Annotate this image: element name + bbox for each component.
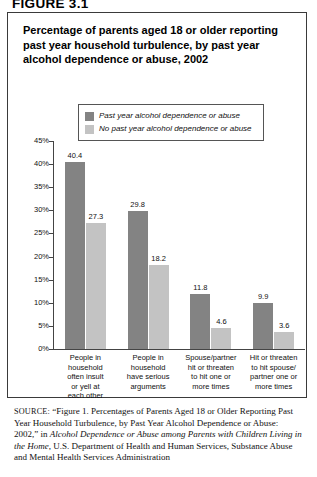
y-axis-tick-label: 40% [16, 160, 49, 168]
bar[interactable] [274, 332, 294, 349]
x-axis-category-label: Hit or threatento hit spouse/partner one… [242, 353, 305, 391]
x-axis-category-line: have serious [117, 372, 180, 382]
y-axis-tick-label: 0% [16, 345, 49, 353]
x-axis-category-line: often insult [54, 372, 117, 382]
bars-container: 40.427.329.818.211.84.69.93.6 [54, 141, 305, 349]
x-axis-category-line: arguments [117, 382, 180, 392]
y-axis: 45%40%35%30%25%20%15%10%5%0% [16, 141, 49, 349]
legend-item: Past year alcohol dependence or abuse [85, 110, 257, 122]
y-axis-tick-mark [49, 257, 53, 258]
x-axis-category-line: household [117, 363, 180, 373]
legend-item: No past year alcohol dependence or abuse [85, 123, 257, 135]
bar-group: 29.818.2 [117, 141, 180, 349]
bar-value-label: 4.6 [207, 318, 235, 326]
y-axis-tick-label: 45% [16, 137, 49, 145]
x-axis-category-line: hit or threaten [180, 363, 243, 373]
x-axis-category-line: to hit spouse/ [242, 363, 305, 373]
x-axis-category-line: Spouse/partner [180, 353, 243, 363]
y-axis-tick-mark [49, 210, 53, 211]
legend-item-label: Past year alcohol dependence or abuse [99, 111, 240, 121]
x-axis-category-line: more times [180, 382, 243, 392]
x-axis-category-line: People in [117, 353, 180, 363]
bar-group: 11.84.6 [180, 141, 243, 349]
bar-value-label: 29.8 [124, 201, 152, 209]
x-axis-line [53, 349, 305, 350]
y-axis-tick-mark [49, 326, 53, 327]
x-axis-category-line: People in [54, 353, 117, 363]
chart-legend: Past year alcohol dependence or abuse No… [78, 104, 264, 141]
bar[interactable] [211, 328, 231, 349]
x-axis-category-label: People inhouseholdoften insultor yell at… [54, 353, 117, 401]
bar[interactable] [86, 223, 106, 349]
source-note-part2: , U.S. Department of Health and Human Se… [14, 441, 292, 463]
x-axis-category-line: partner one or [242, 372, 305, 382]
bar[interactable] [65, 162, 85, 349]
plot-area: 45%40%35%30%25%20%15%10%5%0% 40.427.329.… [8, 141, 308, 399]
bar-value-label: 27.3 [82, 213, 110, 221]
x-axis-category-label: People inhouseholdhave seriousarguments [117, 353, 180, 391]
legend-swatch-icon [85, 125, 94, 134]
y-axis-tick-label: 35% [16, 183, 49, 191]
x-axis-category-line: or yell at [54, 382, 117, 392]
y-axis-tick-mark [49, 280, 53, 281]
source-note: SOURCE: “Figure 1. Percentages of Parent… [14, 406, 304, 464]
y-axis-tick-label: 10% [16, 299, 49, 307]
x-axis-category-line: to hit one or [180, 372, 243, 382]
legend-item-label: No past year alcohol dependence or abuse [99, 124, 252, 134]
x-axis-category-line: household [54, 363, 117, 373]
bar-group: 9.93.6 [242, 141, 305, 349]
legend-swatch-icon [85, 112, 94, 121]
bar[interactable] [149, 265, 169, 349]
x-axis-categories: People inhouseholdoften insultor yell at… [54, 353, 305, 399]
bar-value-label: 9.9 [249, 293, 277, 301]
y-axis-tick-label: 25% [16, 230, 49, 238]
chart-title: Percentage of parents aged 18 or older r… [23, 23, 295, 67]
x-axis-category-line: more times [242, 382, 305, 392]
figure-number: FIGURE 3.1 [12, 0, 89, 11]
x-axis-category-line: each other [54, 391, 117, 401]
x-axis-category-label: Spouse/partnerhit or threatento hit one … [180, 353, 243, 391]
y-axis-tick-mark [49, 349, 53, 350]
y-axis-tick-label: 30% [16, 207, 49, 215]
bar-value-label: 3.6 [270, 322, 298, 330]
y-axis-tick-mark [49, 141, 53, 142]
y-axis-tick-label: 5% [16, 322, 49, 330]
y-axis-tick-label: 15% [16, 276, 49, 284]
source-note-prefix: SOURCE: [14, 407, 50, 416]
bar-group: 40.427.3 [54, 141, 117, 349]
figure-box: Percentage of parents aged 18 or older r… [7, 12, 307, 398]
y-axis-tick-mark [49, 303, 53, 304]
bar-value-label: 11.8 [186, 284, 214, 292]
bar[interactable] [128, 211, 148, 349]
y-axis-tick-label: 20% [16, 253, 49, 261]
bar-value-label: 40.4 [61, 152, 89, 160]
y-axis-tick-mark [49, 187, 53, 188]
y-axis-tick-mark [49, 164, 53, 165]
bar-value-label: 18.2 [145, 255, 173, 263]
x-axis-category-line: Hit or threaten [242, 353, 305, 363]
y-axis-tick-mark [49, 233, 53, 234]
